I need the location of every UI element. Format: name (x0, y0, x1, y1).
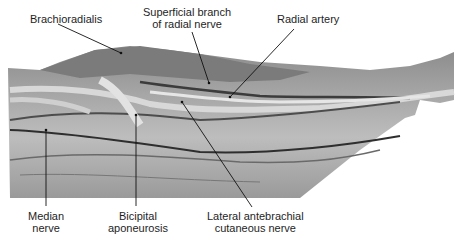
label-lateral-antebrachial-cutaneous-nerve: Lateral antebrachial cutaneous nerve (207, 210, 304, 234)
label-radial-artery: Radial artery (277, 13, 339, 25)
label-superficial-branch-radial-nerve: Superficial branch of radial nerve (143, 6, 231, 30)
anatomy-figure: Brachioradialis Superficial branch of ra… (0, 0, 456, 241)
label-median-nerve: Median nerve (28, 210, 64, 234)
label-brachioradialis: Brachioradialis (30, 13, 102, 25)
forearm-dissection-photo (0, 0, 456, 241)
label-bicipital-aponeurosis: Bicipital aponeurosis (108, 210, 168, 234)
